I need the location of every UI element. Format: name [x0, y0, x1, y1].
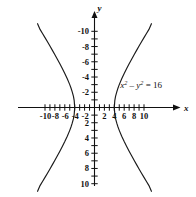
y-tick-label: 2 [85, 118, 89, 128]
y-tick-label: -4 [82, 72, 90, 82]
y-tick-label: 4 [85, 133, 90, 143]
x-tick-label: -10 [40, 111, 51, 121]
y-tick-label: 8 [85, 163, 89, 173]
x-tick-label: -8 [52, 111, 59, 121]
y-tick-label: -10 [78, 26, 89, 36]
x-tick-label: 2 [102, 111, 106, 121]
graph-canvas: -10-8-6-4-2246810 108642-2-4-6-8-10 x y … [0, 0, 196, 197]
x-axis-label: x [183, 103, 189, 113]
y-tick-label: -6 [82, 57, 89, 67]
x-axis-arrowhead [173, 105, 181, 111]
equation-annotation: x2 – y2 = 16 [119, 79, 162, 90]
y-tick-label: 10 [81, 179, 90, 189]
y-tick-label: 6 [85, 148, 89, 158]
x-tick-label: -6 [62, 111, 69, 121]
x-tick-label: 10 [140, 111, 149, 121]
equation-right-side: 16 [153, 80, 163, 90]
x-tick-label: 8 [132, 111, 136, 121]
y-tick-label: -8 [82, 42, 89, 52]
axes-group [18, 11, 181, 186]
y-axis-label: y [97, 3, 103, 13]
x-tick-label: 6 [122, 111, 126, 121]
hyperbola-figure: -10-8-6-4-2246810 108642-2-4-6-8-10 x y … [0, 0, 196, 197]
y-tick-label: -2 [82, 87, 89, 97]
